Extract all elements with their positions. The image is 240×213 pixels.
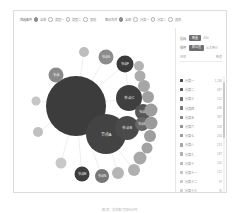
- radio-icon[interactable]: [151, 17, 156, 22]
- radio-icon[interactable]: [83, 17, 88, 22]
- graph-node-circle[interactable]: [32, 97, 41, 106]
- graph-node-circle[interactable]: [33, 127, 43, 137]
- graph-node-circle[interactable]: [144, 130, 156, 142]
- graph-node[interactable]: [56, 158, 67, 169]
- figure-caption: 图表：关系图可视化示例: [0, 207, 240, 212]
- filter-option-0-0[interactable]: 全部: [34, 17, 47, 22]
- graph-node[interactable]: [145, 117, 158, 130]
- graph-node[interactable]: [128, 164, 140, 176]
- list-item[interactable]: 分类一1,280: [180, 76, 222, 85]
- graph-node-circle[interactable]: [99, 50, 114, 65]
- color-swatch-icon: [180, 97, 183, 100]
- color-swatch-icon: [180, 171, 183, 174]
- graph-node-circle[interactable]: [142, 91, 154, 103]
- graph-node[interactable]: [79, 47, 89, 57]
- graph-node[interactable]: [134, 61, 144, 71]
- graph-node[interactable]: [145, 104, 158, 117]
- graph-node-circle[interactable]: [134, 61, 144, 71]
- toggle-value[interactable]: 占比: [203, 36, 209, 40]
- radio-icon[interactable]: [168, 17, 173, 22]
- toggle-value[interactable]: 从大到小: [206, 46, 218, 50]
- list-item[interactable]: 分类二687: [180, 85, 222, 94]
- graph-node-circle[interactable]: [128, 164, 140, 176]
- graph-node[interactable]: [142, 143, 153, 154]
- bubble-network-canvas[interactable]: 节点A节点B节点C节点D节点E节点F节点G节点I节点M节点N: [14, 28, 177, 193]
- filter-option-1-0[interactable]: 全部: [119, 17, 132, 22]
- graph-node-circle[interactable]: [49, 68, 64, 83]
- graph-node[interactable]: [138, 80, 150, 92]
- toggle-pill-button[interactable]: 默认值: [189, 45, 204, 51]
- filter-option-1-2[interactable]: 分类二: [151, 17, 167, 22]
- filter-option-0-2[interactable]: 类型二: [66, 17, 82, 22]
- list-header: 名称 数值: [180, 55, 222, 63]
- list-scrollbar-thumb[interactable]: [223, 82, 225, 138]
- toggle-name: 排序: [180, 45, 187, 50]
- graph-node-circle[interactable]: [112, 167, 124, 179]
- graph-node-circle[interactable]: [135, 71, 146, 82]
- filter-option-0-1[interactable]: 类型一: [48, 17, 64, 22]
- list-item[interactable]: 分类十三76: [180, 186, 222, 193]
- graph-node[interactable]: [134, 152, 147, 165]
- graph-node[interactable]: 节点M: [75, 167, 90, 182]
- toggle-row-0[interactable]: 指标数量占比: [180, 35, 222, 41]
- list-item-label: 分类二: [185, 87, 215, 92]
- graph-node[interactable]: [142, 91, 154, 103]
- list-item[interactable]: 分类三512: [180, 94, 222, 103]
- list-item-value: 76: [219, 189, 222, 193]
- node-layer[interactable]: 节点A节点B节点C节点D节点E节点F节点G节点I节点M节点N: [32, 47, 158, 183]
- color-swatch-icon: [180, 162, 183, 165]
- list-item-value: 318: [217, 125, 222, 129]
- graph-node-circle[interactable]: [145, 117, 158, 130]
- graph-node-circle[interactable]: [134, 152, 147, 165]
- filter-option-label: 类型二: [72, 17, 81, 22]
- filter-option-0-3[interactable]: 其他: [83, 17, 96, 22]
- radio-icon[interactable]: [119, 17, 124, 22]
- list-header-name: 名称: [180, 55, 216, 59]
- graph-node[interactable]: [32, 97, 41, 106]
- list-item[interactable]: 分类八213: [180, 140, 222, 149]
- graph-node[interactable]: [135, 71, 146, 82]
- radio-icon[interactable]: [133, 17, 138, 22]
- filter-option-1-1[interactable]: 分类一: [133, 17, 149, 22]
- list-item[interactable]: 分类四430: [180, 104, 222, 113]
- list-item-label: 分类九: [185, 152, 215, 157]
- graph-node[interactable]: [112, 167, 124, 179]
- graph-node[interactable]: 节点G: [99, 50, 114, 65]
- color-swatch-icon: [180, 189, 183, 192]
- graph-node-circle[interactable]: [79, 47, 89, 57]
- network-graph-svg[interactable]: 节点A节点B节点C节点D节点E节点F节点G节点I节点M节点N: [14, 28, 177, 193]
- graph-node[interactable]: 节点F: [117, 56, 134, 73]
- list-item[interactable]: 分类十一121: [180, 168, 222, 177]
- graph-node-circle[interactable]: [95, 169, 109, 183]
- radio-icon[interactable]: [66, 17, 71, 22]
- graph-node-circle[interactable]: [56, 158, 67, 169]
- graph-node-circle[interactable]: [138, 80, 150, 92]
- list-item[interactable]: 分类十152: [180, 159, 222, 168]
- list-item[interactable]: 分类九187: [180, 150, 222, 159]
- list-item[interactable]: 分类七264: [180, 131, 222, 140]
- toggle-pill-button[interactable]: 数量: [189, 35, 201, 41]
- filter-option-1-3[interactable]: 其他: [168, 17, 181, 22]
- toggle-row-1[interactable]: 排序默认值从大到小: [180, 45, 222, 51]
- graph-node-circle[interactable]: [75, 167, 90, 182]
- graph-node[interactable]: 节点I: [49, 68, 64, 83]
- graph-node[interactable]: 节点N: [95, 169, 109, 183]
- graph-node[interactable]: [33, 127, 43, 137]
- graph-node-circle[interactable]: [117, 56, 134, 73]
- category-list[interactable]: 分类一1,280分类二687分类三512分类四430分类五367分类六318分类…: [176, 74, 226, 193]
- list-item[interactable]: 分类五367: [180, 113, 222, 122]
- graph-node-circle[interactable]: [115, 116, 139, 140]
- graph-node-circle[interactable]: [142, 143, 153, 154]
- list-item[interactable]: 分类六318: [180, 122, 222, 131]
- graph-node[interactable]: [144, 130, 156, 142]
- filter-option-label: 全部: [125, 17, 131, 22]
- filter-label: 筛选条件: [20, 17, 32, 22]
- graph-node-circle[interactable]: [145, 104, 158, 117]
- list-item-label: 分类十: [185, 161, 215, 166]
- list-item[interactable]: 分类十二97: [180, 177, 222, 186]
- radio-icon[interactable]: [34, 17, 39, 22]
- graph-node[interactable]: 节点B: [115, 116, 139, 140]
- app-root: 筛选条件全部类型一类型二其他显示方式全部分类一分类二其他 节点A节点B节点C节点…: [0, 0, 240, 213]
- list-scrollbar-track[interactable]: [223, 76, 225, 193]
- radio-icon[interactable]: [48, 17, 53, 22]
